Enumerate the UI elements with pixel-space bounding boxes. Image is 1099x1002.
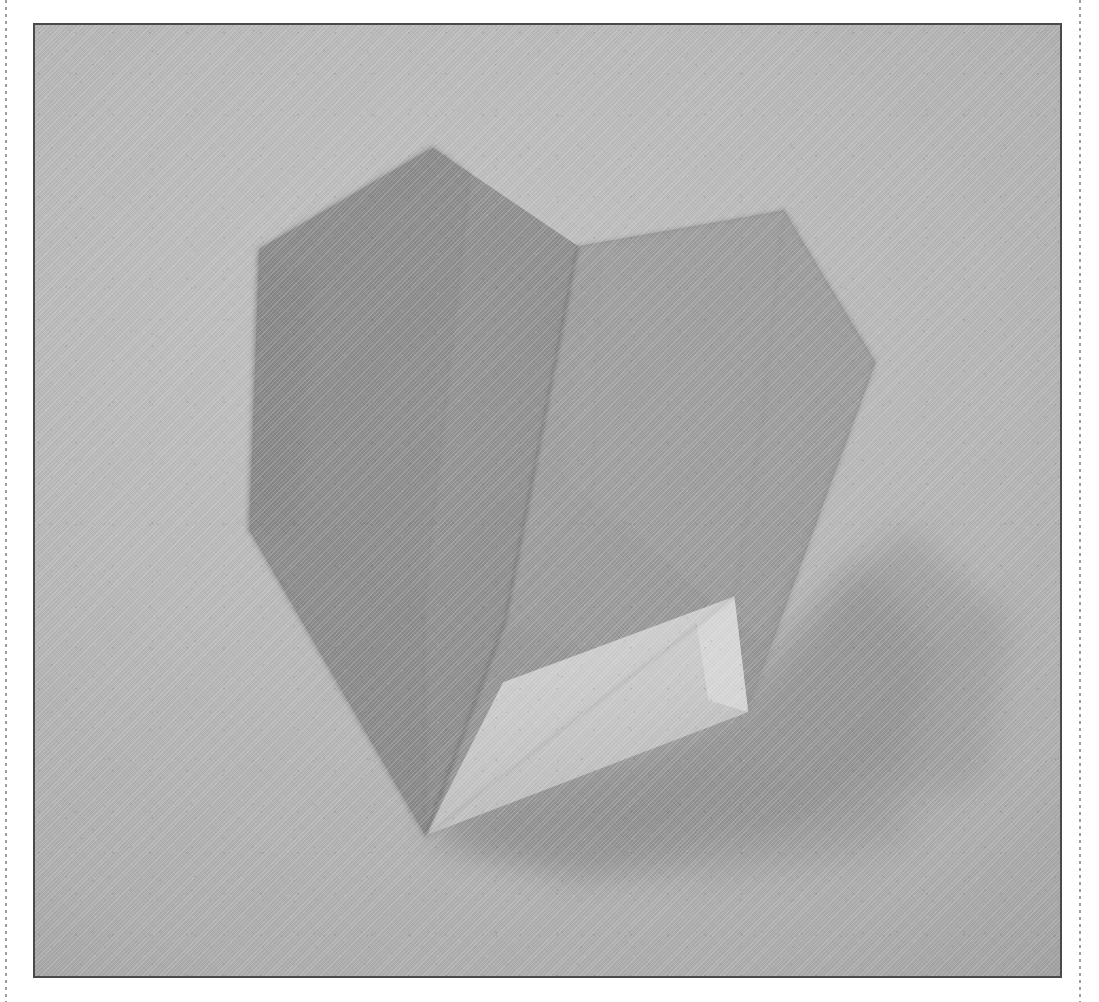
perforation-rule-right: [1079, 0, 1081, 1002]
origami-heart-illustration: [35, 25, 1060, 976]
photograph-frame: [33, 23, 1062, 978]
perforation-rule-left: [5, 0, 7, 1002]
scanned-page: [0, 0, 1099, 1002]
